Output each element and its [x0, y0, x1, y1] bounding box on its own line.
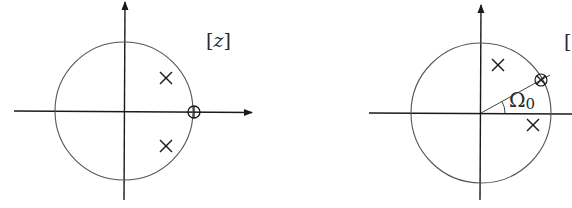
left-imag-axis — [124, 2, 125, 200]
omega-symbol: Ω — [509, 88, 526, 112]
left-plane-label: [z] — [206, 29, 231, 51]
pole-zero-figure — [0, 0, 572, 208]
zero-marker-icon — [535, 74, 547, 86]
omega-subscript: 0 — [526, 95, 536, 113]
omega-zero-label: Ω0 — [509, 88, 535, 112]
bracket-open: [ — [564, 30, 571, 52]
z-variable: z — [213, 29, 223, 51]
right-z-plane — [369, 5, 572, 200]
right-imag-axis — [480, 5, 481, 200]
pole-marker-icon — [492, 59, 504, 71]
bracket-close: ] — [223, 29, 230, 51]
right-plane-label-partial: [ — [564, 30, 571, 52]
pole-marker-icon — [527, 119, 539, 131]
pole-marker-icon — [160, 72, 172, 84]
pole-marker-icon — [160, 140, 172, 152]
right-real-axis — [369, 113, 572, 114]
left-real-axis — [14, 111, 252, 113]
angle-arc — [502, 102, 505, 114]
